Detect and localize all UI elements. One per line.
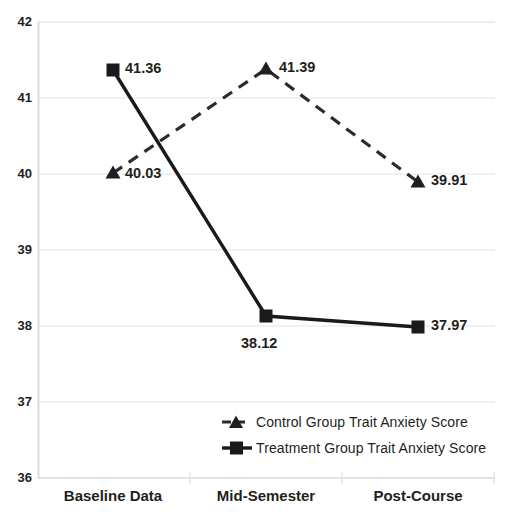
legend-swatch-control [222,416,250,429]
y-tick-40: 40 [2,167,32,180]
y-tick-37: 37 [2,395,32,408]
legend-item-control-group: Control Group Trait Anxiety Score [256,415,468,429]
y-tick-38: 38 [2,319,32,332]
data-label-treatment-baseline: 41.36 [125,61,161,76]
series-treatment-group [107,64,425,334]
data-label-control-mid: 41.39 [279,60,315,75]
marker-square-mid [260,310,273,323]
data-label-control-baseline: 40.03 [125,166,161,181]
x-tick-baseline-data: Baseline Data [43,488,183,503]
y-tick-39: 39 [2,243,32,256]
marker-square-baseline [107,64,120,77]
legend-swatch-treatment [222,442,252,455]
x-tick-post-course: Post-Course [348,488,488,503]
marker-triangle-baseline [106,166,121,179]
y-tick-42: 42 [2,15,32,28]
legend-swatches [222,416,252,455]
trait-anxiety-line-chart: 42 41 40 39 38 37 36 Baseline Data Mid-S… [0,0,507,522]
y-tick-36: 36 [2,471,32,484]
y-tick-41: 41 [2,91,32,104]
marker-square-post [412,321,425,334]
legend-item-treatment-group: Treatment Group Trait Anxiety Score [256,441,486,455]
data-label-treatment-post: 37.97 [431,318,467,333]
data-label-control-post: 39.91 [431,173,467,188]
data-label-treatment-mid: 38.12 [241,336,277,351]
x-tick-mid-semester: Mid-Semester [196,488,336,503]
marker-triangle-mid [259,62,274,75]
gridlines-horizontal [38,22,495,478]
